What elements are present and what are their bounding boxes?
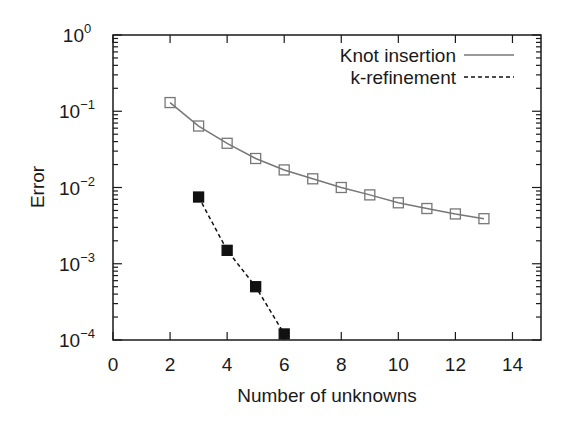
y-tick-label: 10−1	[59, 97, 95, 122]
series-group	[165, 98, 489, 339]
data-point-marker	[222, 245, 232, 255]
data-point-marker	[279, 329, 289, 339]
x-tick-label: 0	[108, 354, 119, 375]
x-tick-label: 14	[502, 354, 524, 375]
data-point-marker	[194, 192, 204, 202]
series-line-0	[170, 103, 484, 219]
x-axis-title: Number of unknowns	[237, 385, 417, 406]
x-tick-label: 2	[165, 354, 176, 375]
legend-label-k-refinement: k-refinement	[350, 67, 456, 88]
x-tick-label: 10	[388, 354, 409, 375]
y-tick-label: 10−4	[59, 326, 95, 351]
x-tick-label: 6	[279, 354, 290, 375]
y-tick-label: 10−2	[59, 174, 95, 199]
x-tick-label: 12	[445, 354, 466, 375]
x-tick-label: 4	[222, 354, 233, 375]
data-point-marker	[251, 282, 261, 292]
legend: Knot insertion k-refinement	[340, 45, 514, 88]
y-axis-title: Error	[27, 165, 48, 208]
y-tick-label: 10−3	[59, 250, 95, 275]
axis-ticks	[113, 35, 541, 340]
series-line-1	[199, 197, 285, 334]
y-tick-label: 100	[63, 21, 91, 46]
legend-label-knot-insertion: Knot insertion	[340, 45, 456, 66]
chart: 0246810121410010−110−210−310−4 Number of…	[0, 0, 571, 424]
plot-frame	[113, 35, 541, 340]
x-tick-label: 8	[336, 354, 347, 375]
